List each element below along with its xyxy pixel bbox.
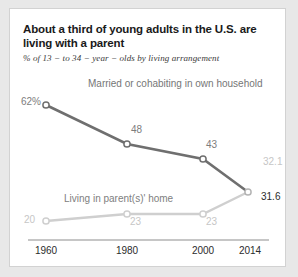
data-point-married-2000[interactable] [200,156,206,162]
x-tick-1960: 1960 [35,245,57,256]
x-tick-2014: 2014 [239,245,261,256]
series-label-parents: Living in parent(s)' home [64,193,173,205]
x-tick-1980: 1980 [116,245,138,256]
line-chart-plot [10,9,286,267]
data-point-parents-1960[interactable] [43,218,49,224]
value-label-parents-1960: 20 [24,214,35,225]
data-point-converge-2014[interactable] [245,189,251,195]
chart-card: About a third of young adults in the U.S… [9,8,286,267]
series-label-married: Married or cohabiting in own household [88,78,238,90]
series-line-married [46,105,248,192]
data-point-married-1980[interactable] [124,141,130,147]
value-label-married-1980: 48 [131,124,142,135]
value-label-parents-1980: 23 [130,216,141,227]
value-label-married-1960: 62% [21,96,41,107]
value-label-parents-2014: 31.6 [261,191,280,202]
data-point-married-1960[interactable] [43,102,49,108]
x-tick-2000: 2000 [192,245,214,256]
value-label-married-2000: 43 [206,139,217,150]
value-label-parents-2000: 23 [206,216,217,227]
value-label-married-2014: 32.1 [263,156,282,167]
